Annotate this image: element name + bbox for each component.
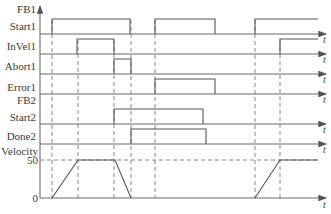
signal-velocity xyxy=(40,160,326,198)
signal-error1 xyxy=(40,79,326,94)
t-label: t xyxy=(323,74,326,85)
timing-diagram-canvas: FB1 Start1 InVel1 Abort1 Error1 FB2 Star… xyxy=(0,0,331,214)
t-label: t xyxy=(323,94,326,105)
t-label: t xyxy=(323,144,326,155)
group-label-fb1: FB1 xyxy=(17,3,36,15)
label-start2: Start2 xyxy=(10,111,36,123)
tick-50: 50 xyxy=(27,154,39,166)
signal-invel1 xyxy=(40,39,326,54)
label-error1: Error1 xyxy=(7,81,36,93)
signal-start1 xyxy=(40,19,326,34)
t-label: t xyxy=(323,34,326,45)
label-abort1: Abort1 xyxy=(5,60,36,72)
label-start1: Start1 xyxy=(10,20,36,32)
group-label-fb2: FB2 xyxy=(17,94,36,106)
t-label: t xyxy=(323,54,326,65)
tick-0: 0 xyxy=(33,192,39,204)
label-done2: Done2 xyxy=(7,130,36,142)
label-invel1: InVel1 xyxy=(7,40,36,52)
signal-abort1 xyxy=(40,59,326,74)
t-label: t xyxy=(323,199,326,210)
timing-diagram: FB1 Start1 InVel1 Abort1 Error1 FB2 Star… xyxy=(0,0,331,214)
signal-done2 xyxy=(40,129,326,144)
signal-start2 xyxy=(40,109,326,124)
t-label: t xyxy=(323,124,326,135)
